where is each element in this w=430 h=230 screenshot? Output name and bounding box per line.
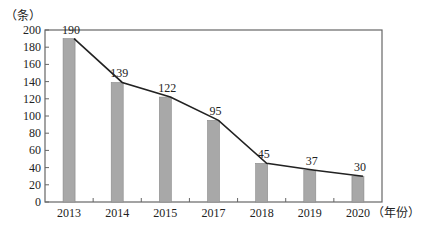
y-tick-label: 40 bbox=[29, 161, 41, 175]
data-label: 45 bbox=[258, 147, 270, 161]
y-tick-label: 140 bbox=[23, 75, 41, 89]
y-tick-label: 20 bbox=[29, 178, 41, 192]
x-tick-label: 2014 bbox=[105, 206, 129, 220]
bar bbox=[256, 163, 268, 202]
data-label: 122 bbox=[158, 81, 176, 95]
x-tick-label: 2017 bbox=[202, 206, 226, 220]
bar bbox=[352, 176, 364, 202]
x-tick-label: 2020 bbox=[346, 206, 370, 220]
y-tick-label: 160 bbox=[23, 57, 41, 71]
bar bbox=[111, 82, 123, 202]
x-tick-label: 2013 bbox=[57, 206, 81, 220]
y-tick-label: 100 bbox=[23, 109, 41, 123]
x-tick-label: 2019 bbox=[298, 206, 322, 220]
bar bbox=[304, 170, 316, 202]
y-tick-label: 180 bbox=[23, 40, 41, 54]
data-label: 30 bbox=[354, 160, 366, 174]
x-tick-label: 2018 bbox=[250, 206, 274, 220]
data-label: 190 bbox=[62, 23, 80, 37]
y-tick-label: 200 bbox=[23, 23, 41, 37]
y-tick-label: 60 bbox=[29, 143, 41, 157]
bar bbox=[159, 97, 171, 202]
x-axis-label: （年份） bbox=[372, 206, 420, 220]
y-tick-label: 80 bbox=[29, 126, 41, 140]
bar bbox=[63, 39, 75, 202]
bar-line-chart: 0204060801001201401601802001902013139201… bbox=[0, 0, 430, 230]
data-label: 37 bbox=[306, 154, 318, 168]
y-tick-label: 120 bbox=[23, 92, 41, 106]
y-tick-label: 0 bbox=[35, 195, 41, 209]
bar bbox=[208, 120, 220, 202]
x-tick-label: 2015 bbox=[153, 206, 177, 220]
y-axis-label: （条） bbox=[5, 9, 41, 23]
